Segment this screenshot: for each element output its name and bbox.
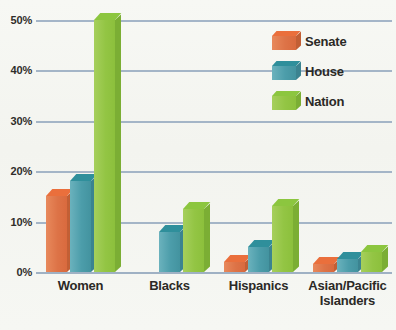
y-axis-tick-label: 0%	[0, 266, 32, 278]
bar-face	[361, 252, 382, 272]
bar-face	[46, 196, 67, 272]
x-axis-category-label: Asian/PacificIslanders	[303, 278, 392, 308]
bar-side	[293, 201, 299, 272]
x-axis-category-label: Hispanics	[214, 278, 303, 308]
legend-label: Senate	[305, 34, 346, 49]
gridline-0%	[36, 272, 392, 274]
bar-house-blacks[interactable]	[159, 232, 180, 272]
swatch-side	[296, 31, 301, 50]
bar-face	[337, 259, 358, 272]
legend-swatch-nation-icon	[272, 96, 296, 110]
bar-face	[159, 232, 180, 272]
bar-house-women[interactable]	[70, 181, 91, 272]
bar-face	[224, 262, 245, 272]
bar-senate-women[interactable]	[46, 196, 67, 272]
legend-item-senate[interactable]: Senate	[272, 28, 390, 54]
x-axis-category-label: Blacks	[125, 278, 214, 308]
y-axis-tick-label: 50%	[0, 14, 32, 26]
legend-swatch-house-icon	[272, 66, 296, 80]
bar-face	[248, 247, 269, 272]
bar-side	[382, 246, 388, 272]
bar-nation-hispanics[interactable]	[272, 206, 293, 272]
bar-face	[94, 20, 115, 272]
swatch-face	[272, 66, 296, 80]
y-axis-tick-label: 10%	[0, 216, 32, 228]
bar-senate-asian-pacific-islanders[interactable]	[313, 264, 334, 272]
y-axis-tick-label: 40%	[0, 64, 32, 76]
bar-side	[204, 204, 210, 272]
swatch-side	[296, 91, 301, 110]
swatch-face	[272, 36, 296, 50]
bar-nation-women[interactable]	[94, 20, 115, 272]
bar-group	[125, 20, 214, 272]
legend-label: Nation	[305, 94, 344, 109]
y-axis-tick-label: 30%	[0, 115, 32, 127]
bar-senate-hispanics[interactable]	[224, 262, 245, 272]
bar-nation-asian-pacific-islanders[interactable]	[361, 252, 382, 272]
bar-nation-blacks[interactable]	[183, 209, 204, 272]
bar-face	[70, 181, 91, 272]
bar-side	[115, 15, 121, 272]
bar-face	[183, 209, 204, 272]
y-axis-tick-label: 20%	[0, 165, 32, 177]
legend-swatch-senate-icon	[272, 36, 296, 50]
swatch-side	[296, 61, 301, 80]
bar-group	[36, 20, 125, 272]
x-axis-category-label: Women	[36, 278, 125, 308]
legend-item-nation[interactable]: Nation	[272, 88, 390, 114]
swatch-face	[272, 96, 296, 110]
bar-house-asian-pacific-islanders[interactable]	[337, 259, 358, 272]
bar-chart: 0%10%20%30%40%50% WomenBlacksHispanicsAs…	[0, 0, 396, 330]
x-axis-labels: WomenBlacksHispanicsAsian/PacificIslande…	[36, 278, 392, 308]
legend-label: House	[305, 64, 344, 79]
bar-face	[313, 264, 334, 272]
chart-legend: SenateHouseNation	[272, 28, 390, 118]
bar-face	[272, 206, 293, 272]
legend-item-house[interactable]: House	[272, 58, 390, 84]
bar-house-hispanics[interactable]	[248, 247, 269, 272]
